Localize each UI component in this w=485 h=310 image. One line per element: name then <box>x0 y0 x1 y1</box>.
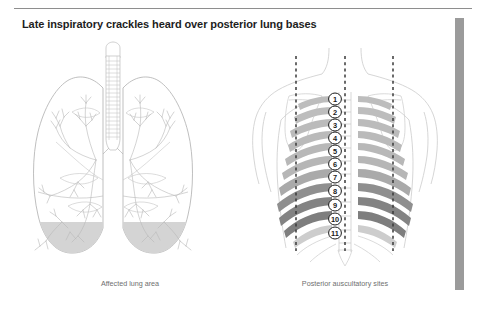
auscultatory-site-7[interactable]: 7 <box>329 171 342 183</box>
auscultatory-site-9[interactable]: 9 <box>329 199 342 211</box>
site-number-label: 5 <box>333 147 337 156</box>
auscultatory-site-10[interactable]: 10 <box>329 213 342 225</box>
auscultatory-site-1[interactable]: 1 <box>329 93 342 105</box>
auscultatory-site-11[interactable]: 11 <box>329 227 342 239</box>
site-number-label: 2 <box>333 108 337 117</box>
auscultatory-site-markers: 1 2 3 4 5 6 7 <box>329 93 342 239</box>
auscultatory-site-2[interactable]: 2 <box>329 106 342 118</box>
posterior-torso-diagram: 1 2 3 4 5 6 7 <box>0 0 485 310</box>
site-number-label: 11 <box>331 229 339 238</box>
site-number-label: 8 <box>333 187 337 196</box>
site-number-label: 9 <box>333 201 337 210</box>
illustration-page: Late inspiratory crackles heard over pos… <box>0 0 485 310</box>
site-number-label: 3 <box>333 121 337 130</box>
auscultatory-site-6[interactable]: 6 <box>329 158 342 170</box>
auscultatory-site-8[interactable]: 8 <box>329 185 342 197</box>
site-number-label: 7 <box>333 173 337 182</box>
site-number-label: 6 <box>333 160 337 169</box>
auscultatory-site-4[interactable]: 4 <box>329 132 342 144</box>
auscultatory-site-3[interactable]: 3 <box>329 119 342 131</box>
site-number-label: 1 <box>333 95 337 104</box>
auscultatory-site-5[interactable]: 5 <box>329 145 342 157</box>
page-edge-marker <box>455 18 464 290</box>
right-panel-caption: Posterior auscultatory sites <box>265 279 425 288</box>
site-number-label: 10 <box>331 215 339 224</box>
